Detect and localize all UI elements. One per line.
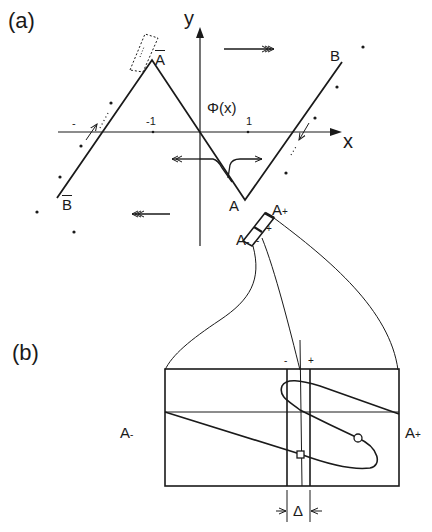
panel-b-label: (b) <box>12 342 39 364</box>
axes <box>58 27 342 246</box>
tick-pos-one <box>247 131 250 134</box>
point-a-plus-label: A+ <box>272 202 288 217</box>
box-plus-sign: + <box>266 224 272 234</box>
point-a-minus-label: A- <box>236 232 249 247</box>
tick-label-neg-one: -1 <box>146 116 156 127</box>
strip-minus-sign: - <box>284 356 287 366</box>
box-minus-sign: - <box>256 236 259 246</box>
dotted-box-a-bar <box>130 34 158 72</box>
tick-neg-one <box>152 131 155 134</box>
point-b-label: B <box>330 48 340 63</box>
panel-b-frame <box>165 340 399 486</box>
function-label: Φ(x) <box>207 100 236 115</box>
end-marker-square-icon <box>297 451 304 458</box>
x-axis-arrowhead-icon <box>330 128 342 136</box>
dotted-trails <box>100 113 297 155</box>
tick-label-pos-one: 1 <box>246 116 252 127</box>
strip-plus-sign: + <box>308 356 314 366</box>
y-axis-label: y <box>184 8 194 28</box>
trajectory <box>165 381 399 469</box>
panel-b-right-label: A+ <box>405 425 421 440</box>
delta-label: Δ <box>293 503 303 518</box>
point-a-bar-label: A <box>155 52 165 67</box>
sign-minus-left: - <box>72 118 76 129</box>
panel-a-label: (a) <box>8 10 35 32</box>
panel-b-left-label: A- <box>120 425 133 440</box>
y-axis-arrowhead-icon <box>196 27 204 38</box>
diagram-canvas <box>0 0 432 532</box>
x-axis-label: x <box>343 131 353 151</box>
point-a-label: A <box>229 198 239 213</box>
start-marker-circle-icon <box>354 434 362 442</box>
point-b-bar-label: B <box>62 197 72 212</box>
